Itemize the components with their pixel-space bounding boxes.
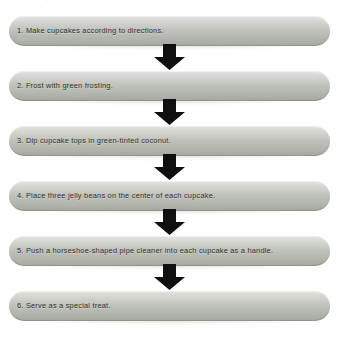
connector-arrow-1 [154,44,185,70]
down-arrow-icon [154,264,185,290]
connector-arrow-3 [154,154,185,180]
flowchart-step-4: 4. Place three jelly beans on the center… [0,181,339,213]
down-arrow-icon [154,99,185,125]
connector-arrow-5 [154,264,185,290]
flowchart-diagram: ·· · 1. Make cupcakes according to direc… [0,0,339,338]
down-arrow-icon [154,209,185,235]
flowchart-step-5: 5. Push a horseshoe-shaped pipe cleaner … [0,236,339,268]
step-label-2: 2. Frost with green frosting. [17,71,113,101]
flowchart-step-3: 3. Dip cupcake tops in green-tinted coco… [0,126,339,158]
step-label-4: 4. Place three jelly beans on the center… [17,181,215,211]
connector-arrow-2 [154,99,185,125]
down-arrow-icon [154,44,185,70]
step-label-5: 5. Push a horseshoe-shaped pipe cleaner … [17,236,273,266]
step-label-3: 3. Dip cupcake tops in green-tinted coco… [17,126,171,156]
step-label-1: 1. Make cupcakes according to directions… [17,16,164,46]
flowchart-step-6: 6. Serve as a special treat. [0,291,339,323]
step-label-6: 6. Serve as a special treat. [17,291,111,321]
cropped-title-remnant: ·· · [46,0,226,5]
connector-arrow-4 [154,209,185,235]
down-arrow-icon [154,154,185,180]
